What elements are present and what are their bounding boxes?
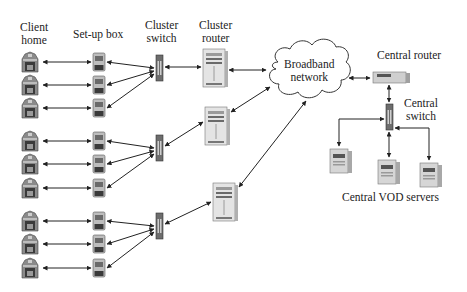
client-home-icons bbox=[22, 52, 38, 278]
central-switch-label-line1: Central bbox=[404, 97, 438, 110]
client-home-label-line2: home bbox=[20, 34, 48, 47]
cluster-router-label-line2: router bbox=[199, 32, 232, 45]
broadband-network-label: Broadband network bbox=[284, 58, 334, 84]
set-up-box-label: Set-up box bbox=[73, 28, 123, 41]
cluster-switch-icons bbox=[156, 55, 163, 239]
stb-switch-links bbox=[107, 62, 154, 268]
cluster-switch-label-line1: Cluster bbox=[145, 19, 178, 32]
client-home-label: Client home bbox=[20, 21, 48, 47]
central-vod-servers-label: Central VOD servers bbox=[342, 191, 439, 204]
central-router-label: Central router bbox=[377, 49, 441, 62]
cluster-switch-label: Cluster switch bbox=[145, 19, 178, 45]
cluster-router-label: Cluster router bbox=[199, 19, 232, 45]
cluster-switch-label-line2: switch bbox=[145, 32, 178, 45]
vod-network-diagram: Client home Set-up box Cluster switch Cl… bbox=[0, 0, 467, 292]
cluster-router-icons bbox=[203, 49, 238, 221]
central-switch-icon bbox=[386, 104, 393, 130]
central-switch-label: Central switch bbox=[404, 97, 438, 123]
home-stb-links bbox=[43, 62, 91, 268]
cluster-router-label-line1: Cluster bbox=[199, 19, 232, 32]
diagram-canvas bbox=[0, 0, 467, 292]
set-up-box-icons bbox=[93, 53, 105, 277]
broadband-network-label-line2: network bbox=[284, 71, 334, 84]
central-router-icon bbox=[373, 72, 410, 83]
central-switch-label-line2: switch bbox=[404, 110, 438, 123]
central-vod-server-icons bbox=[330, 149, 442, 187]
client-home-label-line1: Client bbox=[20, 21, 48, 34]
switch-router-links bbox=[165, 67, 211, 224]
broadband-network-label-line1: Broadband bbox=[284, 58, 334, 71]
